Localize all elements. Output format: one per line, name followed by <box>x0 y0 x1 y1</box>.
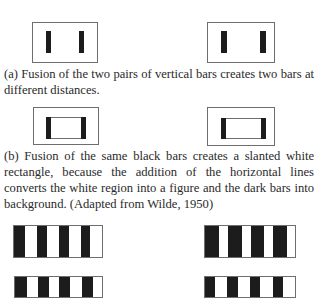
grating-bar <box>251 226 264 257</box>
vertical-bar <box>46 117 51 139</box>
grating-bar <box>59 277 70 297</box>
grating-bar <box>82 277 93 297</box>
grating-right-top <box>204 225 296 258</box>
grating-left-top <box>13 225 103 258</box>
grating-bar <box>250 277 260 297</box>
vertical-bar <box>79 31 84 53</box>
grating-right-bottom <box>204 276 296 298</box>
grating-bar <box>227 277 238 297</box>
grating-bar <box>273 277 283 297</box>
vertical-bar <box>46 31 51 53</box>
grating-bar <box>81 226 90 257</box>
grating-bar <box>59 226 69 257</box>
grating-bar <box>15 277 27 297</box>
grating-bar <box>228 226 242 257</box>
grating-bar <box>273 226 287 257</box>
caption-b: (b) Fusion of the same black bars create… <box>4 148 314 212</box>
vertical-bar <box>260 31 266 53</box>
grating-bar <box>38 277 49 297</box>
horizontal-lines-rectangle <box>46 117 86 139</box>
horizontal-lines-rectangle <box>221 118 266 139</box>
caption-a: (a) Fusion of the two pairs of vertical … <box>4 66 314 98</box>
grating-bar <box>205 277 215 297</box>
vertical-bar <box>81 117 86 139</box>
vertical-bar <box>261 118 266 139</box>
vertical-bar <box>221 118 226 139</box>
grating-bar <box>37 226 47 257</box>
vertical-bar <box>221 31 227 53</box>
grating-bar <box>205 226 219 257</box>
stereo-panel-a-left <box>32 22 98 63</box>
grating-bar <box>14 226 25 257</box>
grating-left-bottom <box>14 276 103 298</box>
